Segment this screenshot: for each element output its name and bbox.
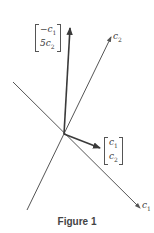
vector-neg-c1-5c2 <box>64 28 70 134</box>
c1-axis-label-sub: 1 <box>147 205 151 212</box>
c2-axis-line <box>27 37 111 210</box>
matrix-column: −c1 5c2 <box>39 24 57 52</box>
matrix-neg-c1-5c2: −c1 5c2 <box>35 24 61 52</box>
matrix-entry-bottom: c2 <box>109 151 118 165</box>
entry-text: −c <box>40 24 53 34</box>
matrix-entry-top: c1 <box>109 137 118 151</box>
entry-sub: 1 <box>53 29 57 36</box>
entry-text: 5c <box>40 38 51 48</box>
entry-sub: 2 <box>114 156 118 163</box>
right-bracket <box>119 137 123 165</box>
matrix-entry-top: −c1 <box>40 24 56 38</box>
entry-sub: 1 <box>114 142 118 149</box>
coordinate-diagram <box>0 0 154 233</box>
vector-c1-c2 <box>64 134 100 148</box>
c2-axis-label: c2 <box>113 31 122 43</box>
right-bracket <box>57 24 61 52</box>
entry-sub: 2 <box>51 43 55 50</box>
matrix-c1-c2: c1 c2 <box>104 137 123 165</box>
matrix-column: c1 c2 <box>108 137 119 165</box>
c1-axis-label: c1 <box>142 200 151 212</box>
figure-caption: Figure 1 <box>0 216 154 227</box>
c2-axis-label-sub: 2 <box>118 36 122 43</box>
matrix-entry-bottom: 5c2 <box>40 38 56 52</box>
